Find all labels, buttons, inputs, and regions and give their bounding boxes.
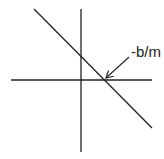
sloped-line xyxy=(34,9,152,128)
diagram-canvas xyxy=(0,0,164,159)
x-intercept-label: -b/m xyxy=(131,44,161,59)
intercept-arrow xyxy=(106,57,129,78)
